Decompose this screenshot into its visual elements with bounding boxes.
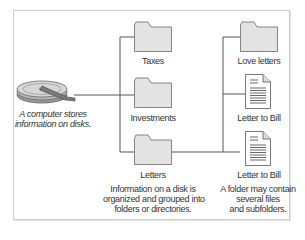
hard-disk-icon bbox=[15, 78, 81, 106]
folder-icon bbox=[240, 21, 278, 52]
right-caption-line3: and subfolders. bbox=[220, 204, 296, 214]
item-label-love-letters: Love letters bbox=[231, 56, 287, 66]
middle-caption-line3: folders or directories. bbox=[103, 204, 203, 214]
folder-label-taxes: Taxes bbox=[128, 56, 178, 66]
item-label-letter-to-bill-2: Letter to Bill bbox=[231, 170, 287, 180]
middle-caption-line1: Information on a disk is bbox=[103, 184, 203, 194]
folder-label-investments: Investments bbox=[123, 113, 183, 123]
document-icon bbox=[245, 131, 271, 166]
folder-icon bbox=[134, 134, 172, 165]
middle-caption-line2: organized and grouped into bbox=[103, 194, 203, 204]
disk-caption-line2: information on disks. bbox=[14, 119, 92, 129]
document-icon bbox=[245, 74, 271, 109]
item-label-letter-to-bill-1: Letter to Bill bbox=[231, 113, 287, 123]
disk-caption-line1: A computer stores bbox=[14, 109, 92, 119]
right-caption-line1: A folder may contain bbox=[220, 184, 296, 194]
right-caption-line2: several files bbox=[220, 194, 296, 204]
folder-icon bbox=[134, 77, 172, 108]
disk-caption: A computer stores information on disks. bbox=[14, 109, 92, 129]
folder-label-letters: Letters bbox=[128, 170, 178, 180]
right-caption: A folder may contain several files and s… bbox=[220, 184, 296, 214]
middle-caption: Information on a disk is organized and g… bbox=[103, 184, 203, 214]
folder-icon bbox=[134, 21, 172, 52]
